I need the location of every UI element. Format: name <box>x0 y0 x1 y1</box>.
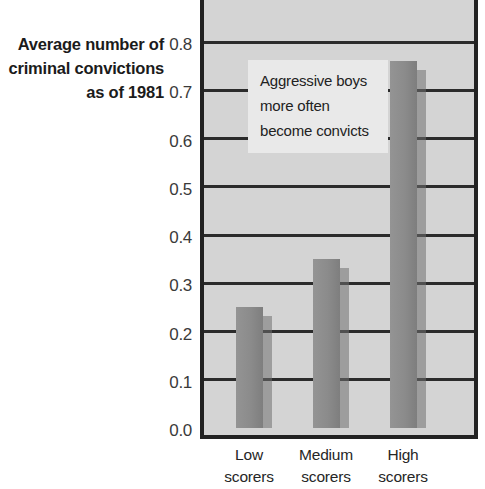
y-tick-label: 0.5 <box>146 180 192 200</box>
bar <box>236 307 263 428</box>
y-tick-label: 0.3 <box>146 276 192 296</box>
annotation-callout: Aggressive boys more often become convic… <box>248 60 388 153</box>
bar <box>390 61 417 428</box>
y-axis-tick-labels: 0.00.10.20.30.40.50.60.70.8 <box>146 0 192 489</box>
gridline-0.5 <box>204 185 474 188</box>
x-axis-label: Highscorers <box>356 444 450 488</box>
y-tick-label: 0.2 <box>146 325 192 345</box>
x-axis-category-labels: LowscorersMediumscorersHighscorers <box>200 444 478 489</box>
gridline-0.8 <box>204 41 474 44</box>
y-axis-title: Average number of criminal convictions a… <box>4 32 164 104</box>
x-axis-label-line-1: High <box>356 444 450 466</box>
y-axis-title-line-2: criminal convictions <box>4 56 164 80</box>
chart-figure: Average number of criminal convictions a… <box>0 0 485 489</box>
y-tick-label: 0.4 <box>146 228 192 248</box>
y-axis-title-line-1: Average number of <box>4 32 164 56</box>
annotation-line-3: become convicts <box>260 118 378 143</box>
y-axis-title-line-3: as of 1981 <box>4 80 164 104</box>
x-axis-label-line-2: scorers <box>356 466 450 488</box>
y-tick-label: 0.6 <box>146 132 192 152</box>
annotation-line-1: Aggressive boys <box>260 68 378 93</box>
y-tick-label: 0.0 <box>146 421 192 441</box>
annotation-line-2: more often <box>260 93 378 118</box>
y-tick-label: 0.8 <box>146 35 192 55</box>
y-tick-label: 0.7 <box>146 83 192 103</box>
bar <box>313 259 340 428</box>
y-tick-label: 0.1 <box>146 373 192 393</box>
gridline-0.4 <box>204 234 474 237</box>
